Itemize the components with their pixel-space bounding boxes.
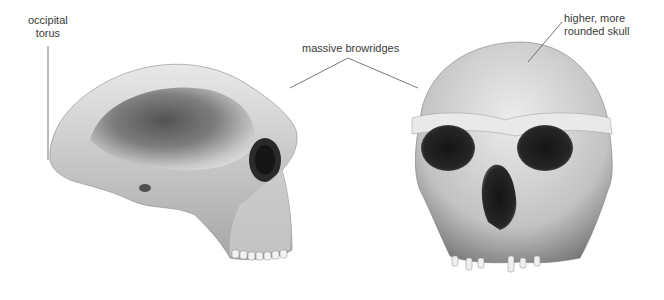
label-line: higher, more — [564, 12, 629, 25]
browridges-label: massive browridges — [302, 42, 399, 55]
label-line: occipital — [28, 14, 68, 27]
label-line: massive browridges — [302, 42, 399, 54]
label-line: torus — [28, 27, 68, 40]
lateral-skull — [50, 64, 297, 260]
occipital-torus-label: occipital torus — [28, 14, 68, 40]
browridge-leader-line-left — [290, 58, 348, 88]
frontal-skull — [412, 42, 612, 272]
browridge-leader-line-right — [348, 58, 418, 88]
label-line: rounded skull — [564, 25, 629, 38]
rounded-skull-label: higher, more rounded skull — [564, 12, 629, 38]
